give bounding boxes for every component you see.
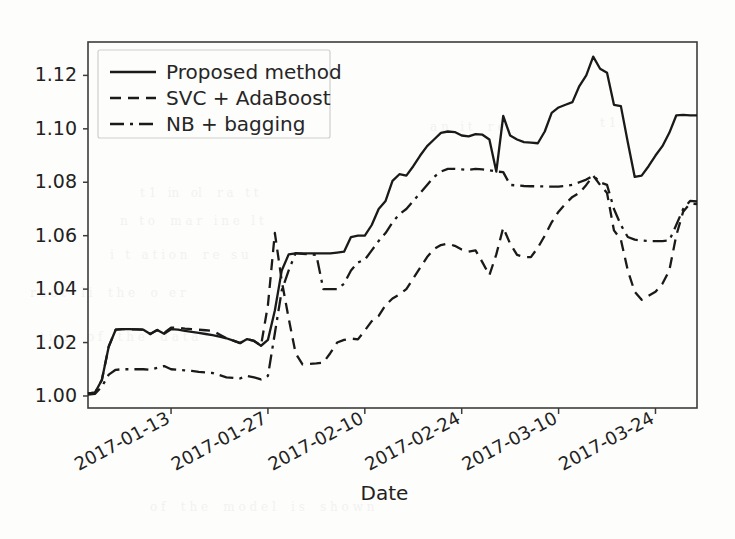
x-axis-title: Date xyxy=(361,481,409,505)
legend-label-1: SVC + AdaBoost xyxy=(166,86,331,110)
x-tick-label: 2017-03-24 xyxy=(555,407,657,475)
x-tick-label: 2017-02-24 xyxy=(361,407,463,475)
legend-label-2: NB + bagging xyxy=(166,112,305,136)
chart-figure: t 1 in ol r a t t n t o m a r i n e l t … xyxy=(0,0,735,539)
y-tick-label: 1.10 xyxy=(35,117,77,139)
y-tick-label: 1.06 xyxy=(35,224,77,246)
x-tick-label: 2017-01-13 xyxy=(71,407,173,475)
series-line-2 xyxy=(88,169,697,395)
legend-label-0: Proposed method xyxy=(166,60,342,84)
y-tick-label: 1.08 xyxy=(35,170,77,192)
y-tick-label: 1.12 xyxy=(35,63,77,85)
y-tick-label: 1.02 xyxy=(35,331,77,353)
y-tick-label: 1.00 xyxy=(35,384,77,406)
x-tick-label: 2017-02-10 xyxy=(264,407,366,475)
y-tick-label: 1.04 xyxy=(35,277,77,299)
x-tick-label: 2017-03-10 xyxy=(458,407,560,475)
chart-plot: 1.001.021.041.061.081.101.122017-01-1320… xyxy=(0,0,735,539)
x-tick-label: 2017-01-27 xyxy=(168,407,270,475)
series-line-1 xyxy=(88,176,697,394)
